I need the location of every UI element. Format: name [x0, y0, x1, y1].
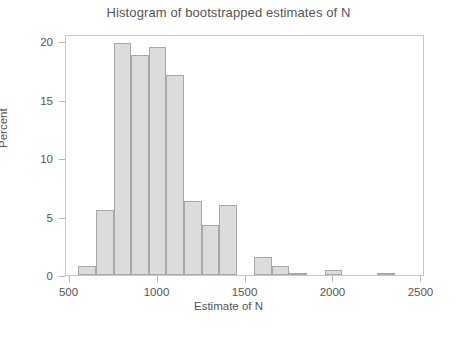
page-title: Histogram of bootstrapped estimates of N [0, 5, 457, 20]
x-tick-label: 1500 [232, 286, 258, 298]
x-tick-label: 2000 [320, 286, 346, 298]
histogram-bar [325, 270, 343, 275]
histogram-bar [131, 55, 149, 275]
x-tick-mark [157, 276, 158, 282]
histogram-bar [202, 225, 220, 275]
histogram-bar [254, 257, 272, 275]
x-tick-label: 500 [59, 286, 78, 298]
histogram-bar [377, 273, 395, 275]
histogram-figure: Histogram of bootstrapped estimates of N… [0, 0, 457, 339]
histogram-bar [114, 43, 132, 275]
y-tick-label: 15 [40, 95, 53, 107]
histogram-bar [219, 205, 237, 275]
histogram-bar [184, 201, 202, 275]
x-tick-mark [420, 276, 421, 282]
histogram-bar [166, 75, 184, 275]
y-tick-label: 20 [40, 36, 53, 48]
x-tick-mark [245, 276, 246, 282]
plot-area [65, 35, 424, 276]
histogram-bar [78, 266, 96, 275]
x-tick-label: 2500 [408, 286, 434, 298]
x-tick-label: 1000 [144, 286, 170, 298]
histogram-bar [272, 266, 290, 275]
y-tick-label: 10 [40, 153, 53, 165]
histogram-bar [289, 273, 307, 275]
bar-series [66, 36, 423, 275]
histogram-bar [96, 210, 114, 276]
y-axis-title: Percent [0, 108, 9, 148]
histogram-bar [149, 47, 167, 275]
x-tick-mark [332, 276, 333, 282]
x-tick-mark [69, 276, 70, 282]
y-tick-label: 5 [47, 212, 53, 224]
x-axis-title: Estimate of N [0, 300, 457, 312]
